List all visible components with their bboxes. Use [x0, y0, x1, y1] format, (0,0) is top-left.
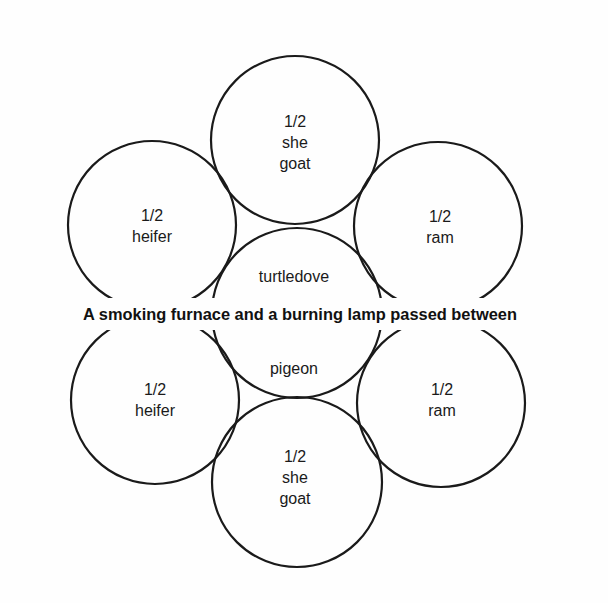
label-lower-left-animal: heifer: [135, 402, 176, 419]
label-lower-right-animal: ram: [428, 402, 456, 419]
label-center-bird-1: turtledove: [259, 268, 329, 285]
circle-lower-left: [71, 316, 239, 484]
label-top-fraction: 1/2: [284, 113, 306, 130]
label-upper-left-animal: heifer: [132, 228, 173, 245]
diagram-caption: A smoking furnace and a burning lamp pas…: [83, 305, 517, 323]
label-top-animal-2: goat: [279, 155, 311, 172]
label-bottom-animal-1: she: [282, 469, 308, 486]
label-lower-left-fraction: 1/2: [144, 381, 166, 398]
covenant-diagram: 1/2 she goat 1/2 heifer 1/2 ram turtledo…: [0, 0, 608, 603]
label-bottom-animal-2: goat: [279, 490, 311, 507]
label-upper-right-fraction: 1/2: [429, 208, 451, 225]
label-upper-left-fraction: 1/2: [141, 207, 163, 224]
circle-upper-left: [68, 141, 236, 309]
label-bottom-fraction: 1/2: [284, 448, 306, 465]
circle-upper-right: [354, 142, 522, 310]
label-center-bird-2: pigeon: [270, 360, 318, 377]
label-lower-right-fraction: 1/2: [431, 381, 453, 398]
label-top-animal-1: she: [282, 134, 308, 151]
label-upper-right-animal: ram: [426, 229, 454, 246]
